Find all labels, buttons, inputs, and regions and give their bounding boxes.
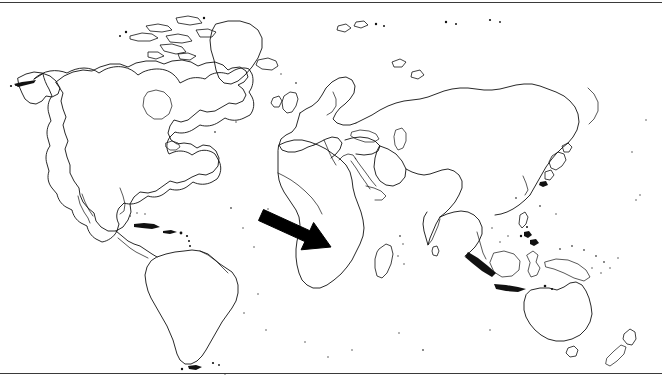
figure-bottom-rule [0,373,662,374]
world-map-figure [0,0,662,379]
annotation-arrow-layer [0,0,662,379]
annotation-arrow [259,210,332,250]
